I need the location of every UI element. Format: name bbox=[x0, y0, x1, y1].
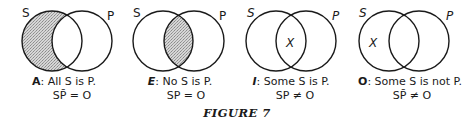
statement-a: A: All S is P. bbox=[32, 75, 96, 88]
venn-diagram-e: S P bbox=[133, 6, 226, 71]
label-p: P bbox=[332, 9, 340, 23]
statement-sep: : bbox=[367, 75, 371, 88]
label-s: S bbox=[133, 6, 141, 20]
statement-o: O: Some S is not P. bbox=[358, 75, 462, 88]
statement-sep: : bbox=[257, 75, 261, 88]
formula-i: SP ≠ O bbox=[276, 89, 314, 102]
marker-x: X bbox=[368, 36, 378, 50]
statement-text: Some S is P. bbox=[264, 75, 330, 88]
statement-text: No S is P. bbox=[163, 75, 213, 88]
statement-letter: O bbox=[358, 75, 367, 88]
venn-diagram-a: S P bbox=[22, 6, 114, 71]
statement-e: E: No S is P. bbox=[148, 75, 212, 88]
label-s: S bbox=[22, 6, 30, 20]
statement-letter: A bbox=[32, 75, 41, 88]
formula-e: SP = O bbox=[167, 89, 205, 102]
venn-diagram-i: S P X bbox=[246, 6, 340, 71]
statement-text: Some S is not P. bbox=[375, 75, 462, 88]
label-p: P bbox=[107, 9, 114, 23]
label-p: P bbox=[446, 9, 454, 23]
statement-letter: E bbox=[148, 75, 156, 88]
label-p: P bbox=[219, 9, 226, 23]
statement-sep: : bbox=[40, 75, 44, 88]
formula-o: SP̄ ≠ O bbox=[393, 89, 431, 102]
figure-caption: FIGURE 7 bbox=[203, 106, 271, 120]
label-s: S bbox=[247, 6, 255, 20]
label-s: S bbox=[359, 6, 367, 20]
statement-sep: : bbox=[155, 75, 159, 88]
formula-a: SP̄ = O bbox=[53, 89, 91, 102]
statement-text: All S is P. bbox=[48, 75, 96, 88]
marker-x: X bbox=[285, 36, 295, 50]
statement-i: I: Some S is P. bbox=[252, 75, 329, 88]
venn-diagram-o: S P X bbox=[359, 6, 454, 71]
